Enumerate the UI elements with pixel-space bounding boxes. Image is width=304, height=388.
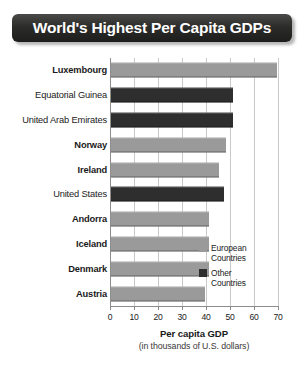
chart-title-banner: World's Highest Per Capita GDPs	[12, 14, 292, 42]
tick-mark	[134, 306, 135, 310]
bar-category-label: Denmark	[68, 264, 107, 274]
bar	[111, 137, 226, 152]
bar-category-label: United Arab Emirates	[22, 115, 107, 125]
x-tick-label: 60	[243, 312, 265, 322]
bar-category-label: Luxembourg	[52, 65, 107, 75]
legend-entry: OtherCountries	[199, 268, 277, 288]
bar	[111, 236, 209, 251]
x-tick-label: 50	[219, 312, 241, 322]
bar	[111, 212, 209, 227]
bar	[111, 63, 277, 78]
x-tick-label: 10	[123, 312, 145, 322]
x-tick-label: 0	[99, 312, 121, 322]
bar-row: Equatorial Guinea	[0, 83, 304, 108]
legend-label-line1: Other	[211, 268, 246, 278]
legend-entry: EuropeanCountries	[199, 243, 277, 263]
x-tick-label: 20	[147, 312, 169, 322]
bar	[111, 286, 205, 301]
chart-figure: World's Highest Per Capita GDPs Luxembou…	[0, 0, 304, 388]
bar-row: Ireland	[0, 157, 304, 182]
bar-row: Andorra	[0, 207, 304, 232]
bar-category-label: Equatorial Guinea	[35, 90, 107, 100]
bar	[111, 261, 209, 276]
bar-row: United Arab Emirates	[0, 108, 304, 133]
tick-mark	[254, 306, 255, 310]
legend-label-line1: European	[211, 243, 247, 253]
bar-category-label: Andorra	[72, 214, 107, 224]
tick-mark	[158, 306, 159, 310]
tick-mark	[230, 306, 231, 310]
chart-plot-container: LuxembourgEquatorial GuineaUnited Arab E…	[0, 50, 304, 388]
legend-swatch-other	[199, 269, 207, 277]
page-title: World's Highest Per Capita GDPs	[33, 20, 271, 37]
x-tick-label: 30	[171, 312, 193, 322]
x-tick-label: 70	[267, 312, 289, 322]
legend-label-line2: Countries	[211, 278, 246, 288]
bar	[111, 88, 233, 103]
bar-category-label: Iceland	[76, 239, 107, 249]
x-axis-subtitle: (in thousands of U.S. dollars)	[90, 341, 298, 351]
x-tick-label: 40	[195, 312, 217, 322]
bar-category-label: United States	[53, 189, 107, 199]
bar-row: United States	[0, 182, 304, 207]
bar	[111, 162, 219, 177]
legend-label: EuropeanCountries	[211, 243, 247, 263]
bar-row: Norway	[0, 132, 304, 157]
bar	[111, 187, 224, 202]
bar-category-label: Ireland	[78, 165, 107, 175]
bar	[111, 112, 233, 127]
legend-label: OtherCountries	[211, 268, 246, 288]
bar-category-label: Austria	[76, 289, 107, 299]
tick-mark	[110, 306, 111, 310]
bar-row: Luxembourg	[0, 58, 304, 83]
tick-mark	[182, 306, 183, 310]
chart-legend: EuropeanCountriesOtherCountries	[199, 243, 277, 293]
x-axis-title: Per capita GDP	[110, 328, 278, 339]
bar-category-label: Norway	[74, 140, 107, 150]
tick-mark	[206, 306, 207, 310]
tick-mark	[278, 306, 279, 310]
legend-swatch-euro	[199, 244, 207, 252]
legend-label-line2: Countries	[211, 253, 247, 263]
